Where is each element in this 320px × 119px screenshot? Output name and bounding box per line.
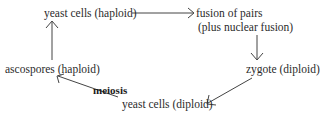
node-ascospores-haploid: ascospores (haploid) bbox=[5, 63, 100, 75]
node-yeast-cells-diploid: yeast cells (diploid) bbox=[122, 98, 213, 110]
node-fusion-detail: (plus nuclear fusion) bbox=[198, 21, 293, 33]
arrow-haploid-to-fusion bbox=[132, 8, 194, 18]
arrow-zygote-to-diploid bbox=[207, 78, 252, 105]
node-zygote-diploid: zygote (diploid) bbox=[246, 63, 320, 75]
node-fusion-of-pairs: fusion of pairs bbox=[196, 7, 262, 19]
arrow-ascospores-to-haploid bbox=[46, 21, 58, 60]
node-yeast-cells-haploid: yeast cells (haploid) bbox=[44, 7, 137, 19]
arrow-fusion-to-zygote bbox=[251, 35, 263, 60]
edge-label-meiosis: meiosis bbox=[93, 84, 127, 96]
